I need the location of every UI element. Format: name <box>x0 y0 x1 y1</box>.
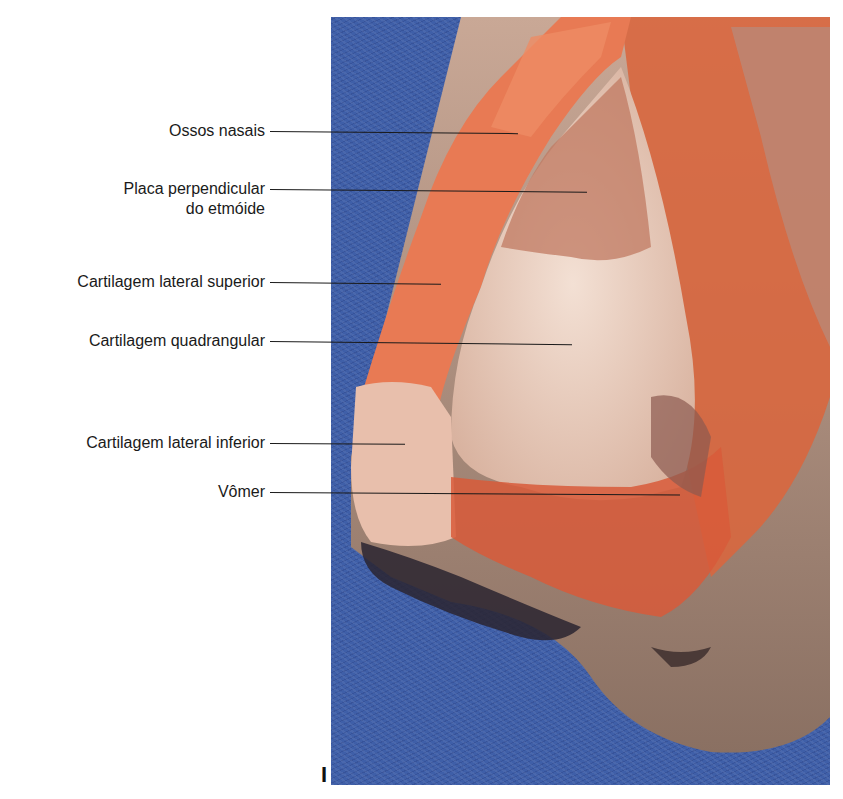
label-placa-line1: Placa perpendicular <box>124 179 265 199</box>
label-cartilagem-quadrangular: Cartilagem quadrangular <box>89 331 265 351</box>
label-placa-line2: do etmóide <box>124 199 265 219</box>
label-ossos-nasais: Ossos nasais <box>169 121 265 141</box>
label-cartilagem-lateral-superior: Cartilagem lateral superior <box>77 272 265 292</box>
label-cartilagem-lateral-inferior: Cartilagem lateral inferior <box>86 433 265 453</box>
panel-letter: I <box>321 764 327 786</box>
label-vomer: Vômer <box>218 482 265 502</box>
label-placa-perpendicular: Placa perpendicular do etmóide <box>124 179 265 219</box>
